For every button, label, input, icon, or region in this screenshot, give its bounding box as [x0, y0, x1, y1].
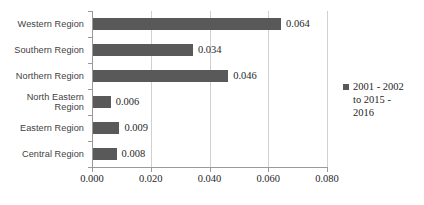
bar [93, 70, 228, 82]
x-axis-tick [151, 168, 152, 172]
x-axis-tick-label: 0.080 [315, 173, 339, 184]
bar-chart: Western Region Southern Region Northern … [0, 0, 424, 205]
bar-value-label: 0.034 [198, 44, 222, 56]
y-axis-label-southern-region: Southern Region [0, 37, 84, 63]
gridline [151, 11, 152, 167]
y-axis-label-eastern-region: Eastern Region [0, 115, 84, 141]
legend-item: 2001 - 2002 to 2015 - 2016 [343, 80, 424, 119]
x-axis-tick-label: 0.060 [256, 173, 280, 184]
gridline [268, 11, 269, 167]
bar-value-label: 0.009 [124, 122, 148, 134]
y-axis-label-western-region: Western Region [0, 11, 84, 37]
bar [93, 148, 117, 160]
x-axis-tick [92, 168, 93, 172]
x-axis-tick-label: 0.000 [80, 173, 104, 184]
y-axis-tick [88, 89, 92, 90]
y-axis-tick [88, 141, 92, 142]
chart-legend: 2001 - 2002 to 2015 - 2016 [343, 80, 424, 119]
x-axis-tick [268, 168, 269, 172]
x-axis-tick-label: 0.040 [198, 173, 222, 184]
x-axis-tick [210, 168, 211, 172]
x-axis-tick-labels: 0.0000.0200.0400.0600.080 [0, 173, 424, 189]
gridline [210, 11, 211, 167]
y-axis-tick [88, 37, 92, 38]
gridline [327, 11, 328, 167]
y-axis-tick [88, 63, 92, 64]
y-axis-category-labels: Western Region Southern Region Northern … [0, 11, 88, 167]
bar-value-label: 0.006 [116, 96, 140, 108]
y-axis-label-northern-region: Northern Region [0, 63, 84, 89]
bar-value-label: 0.046 [233, 70, 257, 82]
plot-area: 0.0080.0090.0060.0460.0340.064 [92, 11, 327, 167]
legend-item-label: 2001 - 2002 to 2015 - 2016 [343, 80, 424, 119]
legend-swatch-icon [343, 84, 349, 90]
x-axis-tick-label: 0.020 [139, 173, 163, 184]
bar-value-label: 0.008 [122, 148, 146, 160]
y-axis-tick [88, 115, 92, 116]
x-axis-tick [327, 168, 328, 172]
bar-value-label: 0.064 [286, 18, 310, 30]
y-axis-line [92, 11, 93, 168]
y-axis-tick [88, 11, 92, 12]
bar [93, 122, 119, 134]
bar [93, 18, 281, 30]
y-axis-label-central-region: Central Region [0, 141, 84, 167]
bar [93, 96, 111, 108]
bar [93, 44, 193, 56]
y-axis-label-north-eastern-region: North Eastern Region [0, 89, 84, 115]
